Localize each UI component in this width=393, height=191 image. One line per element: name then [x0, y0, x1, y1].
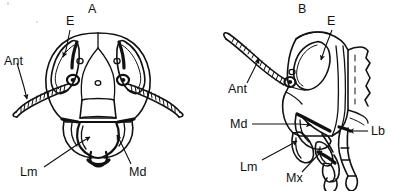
- label-b-maxilla: Mx: [286, 172, 303, 185]
- scan-artifact: [7, 2, 9, 5]
- label-a-compound-eye: E: [66, 15, 74, 28]
- label-b-labrum: Lm: [240, 161, 258, 174]
- occiput-margin-b: [348, 47, 370, 106]
- clypeus-upper-border-a: [82, 99, 114, 101]
- antennal-socket-right-pit-a: [121, 78, 126, 82]
- label-a-antenna: Ant: [4, 55, 23, 68]
- insect-head-figure: A B E Ant Lm Md E Ant Md Lm Mx Lb: [0, 0, 393, 191]
- labrum-inner-a: [81, 126, 86, 149]
- leader-md-a: [117, 135, 131, 164]
- leader-lm-b: [262, 141, 297, 160]
- antenna-right-tip-a: [179, 112, 183, 117]
- frontal-suture-left-a: [81, 48, 98, 100]
- neck-fold-b: [350, 118, 364, 125]
- clypeus-a: [80, 100, 116, 118]
- ocellus-left-a: [77, 58, 83, 63]
- maxillary-palp-seg2-b: [324, 178, 327, 191]
- antennal-socket-pit-b: [288, 80, 292, 84]
- head-ridge-1-b: [332, 46, 338, 136]
- panel-id-b: B: [298, 3, 306, 16]
- antenna-shaft-lower-b: [226, 39, 284, 85]
- labrum-a: [77, 122, 119, 158]
- label-b-labium: Lb: [371, 125, 385, 138]
- labial-palp-b: [346, 176, 358, 191]
- panel-a-drawing: [13, 33, 183, 167]
- leader-ant-a: [17, 63, 27, 99]
- label-b-compound-eye: E: [327, 15, 335, 28]
- head-ridge-2-b: [339, 46, 345, 133]
- vertex-ridge-b: [296, 32, 331, 39]
- panel-id-a: A: [88, 3, 96, 16]
- labium-outer-b: [347, 128, 356, 176]
- label-a-mandible: Md: [129, 166, 147, 179]
- frontal-suture-right-a: [98, 48, 115, 100]
- antenna-left-tip-a: [13, 112, 17, 117]
- label-b-mandible: Md: [230, 118, 248, 131]
- compound-eye-inner-b: [297, 45, 317, 86]
- scan-artifact: [36, 21, 38, 23]
- label-a-labrum: Lm: [20, 166, 38, 179]
- antenna-tip-b: [224, 33, 229, 39]
- antennal-socket-left-pit-a: [71, 78, 76, 82]
- ocellus-median-a: [95, 81, 101, 86]
- antenna-segments-b: [232, 38, 282, 83]
- clypeus-line-b: [286, 92, 302, 104]
- label-b-antenna: Ant: [228, 83, 247, 96]
- leader-md-b: [252, 124, 311, 125]
- figure-linework: [0, 0, 393, 191]
